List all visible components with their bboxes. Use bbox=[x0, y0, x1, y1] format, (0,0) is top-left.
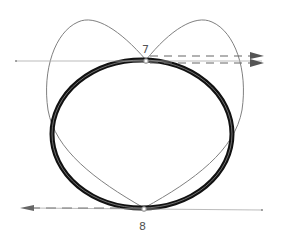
curve-diagram bbox=[0, 0, 287, 244]
main-ellipse bbox=[52, 60, 232, 208]
point-7-label: 7 bbox=[142, 44, 149, 55]
point-7-square bbox=[145, 60, 147, 62]
heart-curve-left bbox=[47, 20, 146, 208]
point-8-label: 8 bbox=[139, 221, 146, 232]
point-8-square bbox=[143, 208, 145, 210]
top-line-start-dot bbox=[15, 60, 17, 62]
top-arrow-icon-2 bbox=[250, 59, 264, 67]
top-arrow-icon-1 bbox=[250, 52, 264, 59]
bottom-arrow-icon bbox=[20, 205, 34, 211]
bottom-line-end-dot bbox=[261, 209, 263, 211]
